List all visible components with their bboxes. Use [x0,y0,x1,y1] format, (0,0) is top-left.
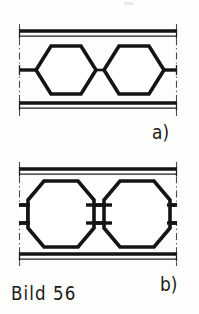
scan-artifact [124,2,133,5]
figure-a-hexagon-left [36,46,96,94]
figure-a-group [19,24,177,116]
figure-b-label: b) [160,272,177,296]
figure-a-hexagon-right [104,46,164,94]
figure-page: .thick { stroke: #141414; stroke-width: … [0,0,199,314]
figure-a-label: a) [152,120,169,144]
figure-b-octagon-right [104,181,170,247]
figure-caption: Bild 56 [11,282,76,304]
figure-b-group [19,162,177,266]
technical-drawing: .thick { stroke: #141414; stroke-width: … [0,0,199,314]
figure-b-octagon-left [28,181,94,247]
